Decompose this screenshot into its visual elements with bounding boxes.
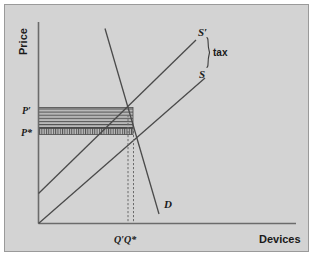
y-tick-p-star: P* <box>21 127 33 138</box>
figure-page: Price Devices P′ P* Q′Q* S′ S D tax <box>0 0 317 259</box>
label-demand: D <box>163 198 172 210</box>
y-axis-title: Price <box>17 28 29 55</box>
y-tick-p-prime: P′ <box>22 105 31 116</box>
lower-band-region <box>39 129 134 135</box>
label-supply: S <box>199 68 205 80</box>
tax-revenue-region <box>39 108 134 129</box>
label-supply-with-tax: S′ <box>198 26 207 38</box>
tax-annotation-label: tax <box>213 47 228 58</box>
supply-demand-tax-chart: Price Devices P′ P* Q′Q* S′ S D tax <box>0 0 317 259</box>
x-tick-q-labels: Q′Q* <box>114 234 137 245</box>
x-axis-title: Devices <box>259 233 301 245</box>
supply-curve <box>39 78 206 224</box>
tax-brace <box>207 38 210 68</box>
